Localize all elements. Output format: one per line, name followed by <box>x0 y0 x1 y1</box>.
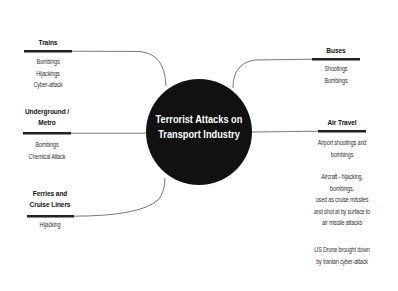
buses-connector <box>233 59 312 88</box>
ferries-items: Hijacking <box>22 219 78 231</box>
ferries-title-line1: Ferries and <box>20 188 79 199</box>
trains-connector <box>72 51 166 86</box>
trains-underline-bar <box>24 50 72 53</box>
air-travel-items-airport: Airport shootings and bombings <box>306 137 378 160</box>
center-title-line1: Terrorist Attacks on <box>153 112 245 127</box>
underground-underline-bar <box>23 132 71 135</box>
underground-items: Bombings Chemical Attack <box>17 139 78 162</box>
trains-items: Bombings Hijackings Cyber-attack <box>21 56 74 91</box>
buses-title: Buses <box>311 45 360 56</box>
ferries-title: Ferries and Cruise Liners <box>20 188 79 210</box>
air-travel-items-aircraft: Aircraft - hijacking, bombings, used as … <box>303 171 381 229</box>
underground-title-line1: Underground / <box>15 106 79 117</box>
air-travel-underline-bar <box>318 130 366 133</box>
ferries-underline-bar <box>27 215 74 218</box>
center-node-label: Terrorist Attacks on Transport Industry <box>153 112 245 142</box>
air-travel-connector <box>252 131 318 132</box>
buses-items: Shootings Bombings <box>308 63 364 86</box>
center-title-line2: Transport Industry <box>153 127 245 142</box>
ferries-title-line2: Cruise Liners <box>20 199 79 210</box>
trains-title: Trains <box>23 37 72 48</box>
underground-title-line2: Metro <box>15 117 79 128</box>
air-travel-title: Air Travel <box>317 117 366 128</box>
ferries-connector <box>74 178 165 216</box>
air-travel-items-drone: US Drone brought down by Iranian cyber-a… <box>303 244 381 267</box>
underground-title: Underground / Metro <box>15 106 79 128</box>
buses-underline-bar <box>312 58 360 61</box>
